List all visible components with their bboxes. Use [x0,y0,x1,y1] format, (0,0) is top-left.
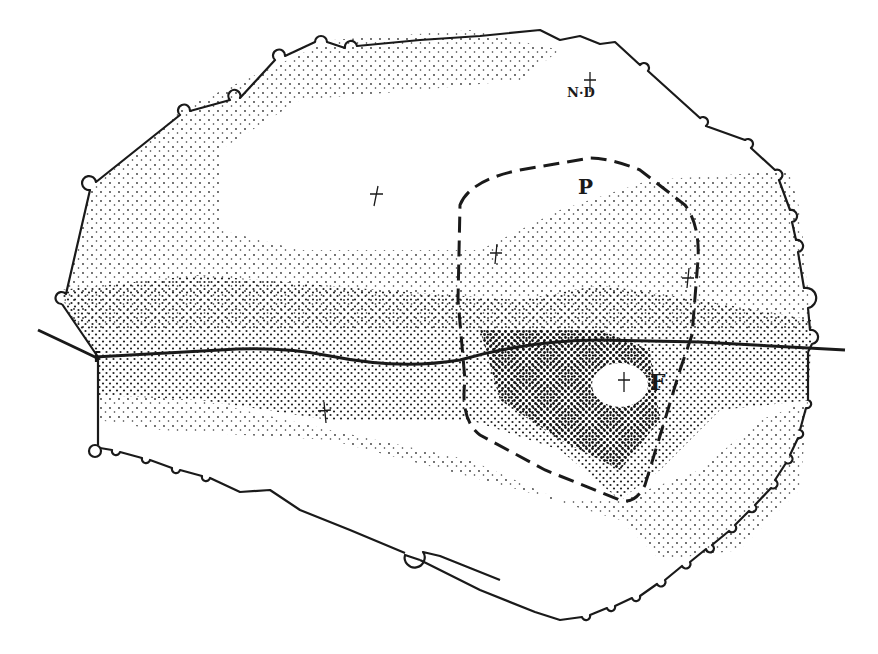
site-plan-map: N·D P F [0,0,878,654]
label-nd: N·D [567,85,595,100]
label-f: F [650,369,666,395]
map-drawing [0,0,878,654]
cross-marker-north [370,186,383,206]
clear-patch-f [592,363,648,407]
label-p: P [578,175,593,199]
stipple-shading [60,30,812,560]
